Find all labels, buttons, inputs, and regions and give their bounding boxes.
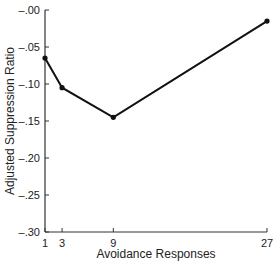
data-point (111, 115, 116, 120)
y-axis-title: Adjusted Suppression Ratio (3, 47, 17, 195)
y-tick-label: –.10 (19, 78, 40, 90)
y-tick-label: –.25 (19, 189, 40, 201)
x-tick-label: 3 (59, 237, 65, 249)
x-tick-label: 1 (42, 237, 48, 249)
y-tick-label: –.30 (19, 226, 40, 238)
x-tick-label: 27 (261, 237, 273, 249)
y-tick-label: –.05 (19, 41, 40, 53)
y-axis: –.00–.05–.10–.15–.20–.25–.30 (19, 4, 49, 238)
data-point (42, 56, 47, 61)
x-axis-title: Avoidance Responses (96, 247, 215, 261)
data-series (42, 19, 269, 120)
line-chart: –.00–.05–.10–.15–.20–.25–.30 13927 Avoid… (0, 0, 276, 264)
y-tick-label: –.20 (19, 152, 40, 164)
data-point (59, 85, 64, 90)
series-line (45, 21, 267, 117)
data-point (264, 19, 269, 24)
x-axis: 13927 (42, 228, 273, 249)
y-tick-label: –.00 (19, 4, 40, 16)
y-tick-label: –.15 (19, 115, 40, 127)
